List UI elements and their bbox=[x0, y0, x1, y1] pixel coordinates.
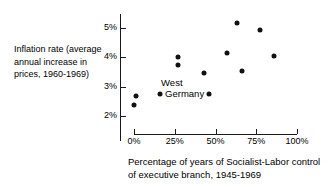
data-point-marker bbox=[133, 94, 138, 99]
data-point-marker bbox=[158, 92, 163, 97]
y-tick-mark bbox=[121, 57, 126, 58]
y-axis-line bbox=[120, 14, 121, 141]
data-point-marker bbox=[176, 62, 181, 67]
x-tick-label: 50% bbox=[206, 137, 224, 146]
x-axis-caption: Percentage of years of Socialist-Labor c… bbox=[128, 155, 328, 181]
x-axis-line bbox=[134, 134, 297, 135]
data-point-marker bbox=[176, 54, 181, 59]
y-tick-label: 2% bbox=[104, 111, 117, 120]
y-axis-caption: Inflation rate (average annual increase … bbox=[14, 43, 114, 81]
x-tick-label: 100% bbox=[285, 137, 308, 146]
data-point-label: WestGermany bbox=[165, 89, 204, 100]
data-point-marker bbox=[132, 103, 137, 108]
data-point-marker bbox=[206, 92, 211, 97]
x-tick-mark bbox=[297, 129, 298, 134]
y-tick-label: 5% bbox=[104, 23, 117, 32]
x-tick-mark bbox=[256, 129, 257, 134]
y-tick-label: 4% bbox=[104, 52, 117, 61]
y-tick-mark bbox=[121, 87, 126, 88]
x-tick-label: 0% bbox=[127, 137, 140, 146]
y-tick-mark bbox=[121, 116, 126, 117]
x-tick-mark bbox=[216, 129, 217, 134]
data-point-label-line-2: Germany bbox=[165, 88, 204, 99]
y-tick-label: 3% bbox=[104, 82, 117, 91]
data-point-marker bbox=[239, 68, 244, 73]
x-tick-mark bbox=[134, 129, 135, 134]
data-point-marker bbox=[234, 21, 239, 26]
x-tick-mark bbox=[175, 129, 176, 134]
data-point-marker bbox=[224, 50, 229, 55]
data-point-marker bbox=[257, 28, 262, 33]
data-point-marker bbox=[202, 71, 207, 76]
y-tick-mark bbox=[121, 28, 126, 29]
data-point-marker bbox=[272, 53, 277, 58]
data-point-label-line-1: West bbox=[161, 78, 182, 89]
x-tick-label: 25% bbox=[166, 137, 184, 146]
scatter-plot-figure: Inflation rate (average annual increase … bbox=[0, 0, 330, 187]
x-tick-label: 75% bbox=[247, 137, 265, 146]
